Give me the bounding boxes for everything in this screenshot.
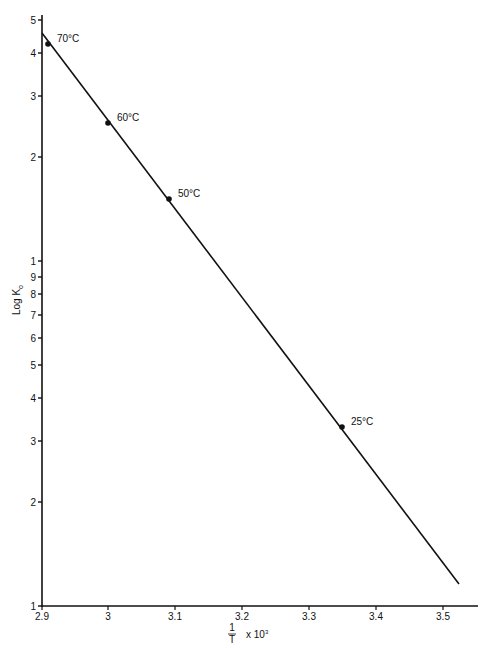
y-ticks: 12345678912345 bbox=[30, 15, 42, 612]
x-tick-label: 3 bbox=[105, 611, 111, 622]
y-tick-label: 1 bbox=[30, 601, 36, 612]
x-tick-label: 3.3 bbox=[302, 611, 316, 622]
x-tick-label: 3.5 bbox=[436, 611, 450, 622]
data-point-label: 70°C bbox=[57, 33, 79, 44]
data-point bbox=[45, 41, 51, 47]
x-tick-label: 3.1 bbox=[168, 611, 182, 622]
data-points: 70°C60°C50°C25°C bbox=[45, 33, 373, 430]
y-tick-label: 6 bbox=[30, 333, 36, 344]
x-tick-label: 2.9 bbox=[35, 611, 49, 622]
y-axis-title-subscript: o bbox=[17, 285, 24, 289]
axes bbox=[41, 15, 478, 607]
x-tick-label: 3.2 bbox=[235, 611, 249, 622]
y-tick-label: 1 bbox=[30, 256, 36, 267]
data-point-label: 25°C bbox=[351, 416, 373, 427]
x-title-denominator: T bbox=[229, 634, 235, 645]
fit-line bbox=[42, 33, 459, 584]
y-tick-label: 7 bbox=[30, 310, 36, 321]
x-axis-title: 1 T x 103 bbox=[228, 622, 269, 645]
x-title-multiplier: x 10 bbox=[246, 629, 265, 640]
svg-text:x 103: x 103 bbox=[246, 629, 269, 640]
data-point-label: 60°C bbox=[117, 112, 139, 123]
y-tick-label: 4 bbox=[30, 393, 36, 404]
data-point-label: 50°C bbox=[178, 188, 200, 199]
y-tick-label: 5 bbox=[30, 15, 36, 26]
x-tick-label: 3.4 bbox=[369, 611, 383, 622]
arrhenius-chart: 12345678912345 2.933.13.23.33.43.5 70°C6… bbox=[0, 0, 488, 648]
y-tick-label: 5 bbox=[30, 360, 36, 371]
data-point bbox=[105, 120, 111, 126]
y-axis-title: Log Ko bbox=[11, 285, 24, 315]
y-tick-label: 8 bbox=[30, 289, 36, 300]
x-ticks: 2.933.13.23.33.43.5 bbox=[35, 606, 450, 622]
y-tick-label: 2 bbox=[30, 152, 36, 163]
y-tick-label: 3 bbox=[30, 91, 36, 102]
y-tick-label: 3 bbox=[30, 436, 36, 447]
y-tick-label: 2 bbox=[30, 497, 36, 508]
y-tick-label: 9 bbox=[30, 272, 36, 283]
svg-text:Log Ko: Log Ko bbox=[11, 285, 24, 315]
data-point bbox=[166, 196, 172, 202]
y-tick-label: 4 bbox=[30, 48, 36, 59]
x-title-exponent: 3 bbox=[265, 629, 269, 635]
y-axis-title-main: Log K bbox=[11, 289, 22, 315]
x-title-numerator: 1 bbox=[229, 622, 235, 633]
data-point bbox=[339, 424, 345, 430]
